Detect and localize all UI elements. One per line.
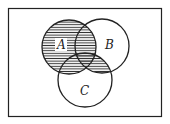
- label-a: A: [56, 38, 66, 52]
- venn-diagram: A B C: [0, 0, 170, 124]
- label-c: C: [80, 84, 89, 98]
- label-b: B: [104, 38, 114, 52]
